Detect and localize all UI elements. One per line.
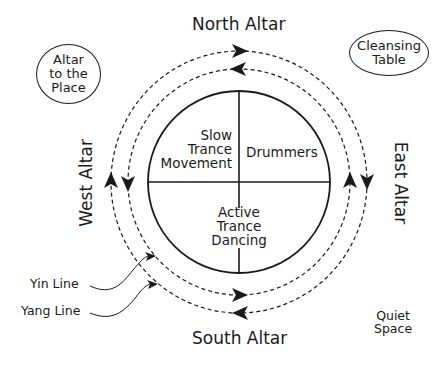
cleansing-table-line: Table [357,53,421,67]
quadrant-line: Movement [160,156,232,170]
altar-to-place-line: Place [49,81,88,95]
quiet-space-label: Quiet Space [374,309,412,335]
altar-to-the-place-oval: Altar to the Place [36,44,101,104]
active-trance-dancing-label: Active Trance Dancing [207,205,271,248]
quadrant-line: Trance [160,142,232,156]
quadrant-line: Trance [207,219,271,233]
slow-trance-movement-label: Slow Trance Movement [160,128,232,171]
arrow-up-icon [104,172,118,188]
quadrant-line: Slow [160,128,232,142]
altar-to-place-line: to the [49,67,88,81]
drummers-label: Drummers [246,145,318,159]
cleansing-table-oval: Cleansing Table [349,30,429,76]
arrow-right-icon [232,288,248,302]
quiet-space-line: Space [374,322,412,335]
north-altar-label: North Altar [192,16,285,34]
quadrant-line: Active [207,205,271,219]
west-altar-label: West Altar [78,135,96,231]
arrow-down-icon [121,176,135,192]
quadrant-line: Dancing [207,233,271,247]
east-altar-label: East Altar [391,135,409,231]
altar-to-place-line: Altar [49,53,88,67]
cleansing-table-line: Cleansing [357,39,421,53]
arrow-left-icon [230,62,246,76]
yin-line-label: Yin Line [30,277,79,290]
yin-line-pointer [90,256,148,290]
yang-line-label: Yang Line [21,304,80,317]
south-altar-label: South Altar [192,330,287,348]
